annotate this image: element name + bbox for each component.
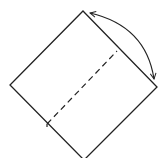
paper-square	[10, 11, 157, 158]
fold-diagram	[0, 0, 163, 158]
valley-fold-line	[47, 51, 117, 124]
double-arrow-icon	[90, 13, 154, 79]
